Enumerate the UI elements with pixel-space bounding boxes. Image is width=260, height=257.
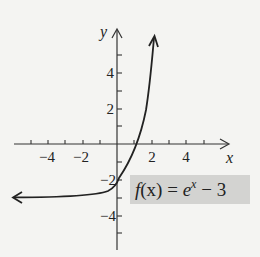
fn-arg: (x) = [140,179,182,200]
fn-base: e [183,179,191,200]
x-tick-label-neg4: −4 [39,149,55,165]
fn-tail: − 3 [196,179,226,200]
y-tick-label-neg4: −4 [100,208,116,224]
y-tick-label-2: 2 [107,101,115,117]
x-tick-label-4: 4 [182,149,190,165]
x-axis [14,139,229,149]
function-label: f(x) = ex − 3 [130,175,250,204]
x-tick-label-2: 2 [148,149,156,165]
x-tick-label-neg2: −2 [73,149,89,165]
y-axis-label: y [98,23,108,41]
y-tick-label-4: 4 [107,65,115,81]
function-graph: −4 −2 2 4 4 2 −2 −4 x y [0,0,260,257]
y-tick-label-neg2: −2 [100,172,116,188]
x-axis-label: x [225,149,233,166]
